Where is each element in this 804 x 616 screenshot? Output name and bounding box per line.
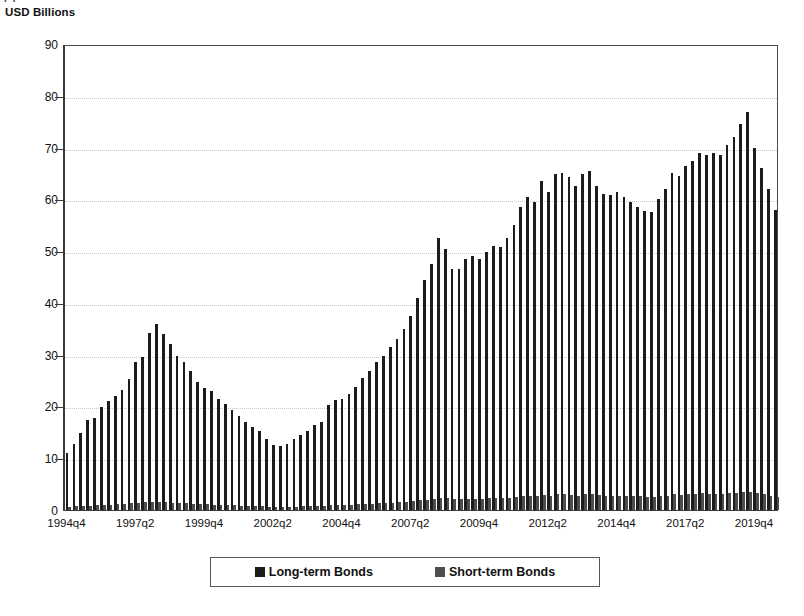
bar-group bbox=[643, 46, 649, 510]
legend-entry[interactable]: Short-term Bonds bbox=[435, 565, 555, 579]
bar-short-term bbox=[75, 506, 78, 510]
bar-group bbox=[478, 46, 484, 510]
bar-long-term bbox=[451, 269, 454, 510]
bar-long-term bbox=[629, 202, 632, 510]
y-tick-mark bbox=[55, 356, 63, 357]
bar-long-term bbox=[251, 427, 254, 510]
bar-group bbox=[416, 46, 422, 510]
bar-group bbox=[464, 46, 470, 510]
bar-group bbox=[141, 46, 147, 510]
bar-short-term bbox=[337, 505, 340, 510]
bar-short-term bbox=[653, 497, 656, 510]
x-tick-label: 1994q4 bbox=[47, 517, 85, 529]
bar-long-term bbox=[492, 246, 495, 510]
bar-short-term bbox=[577, 496, 580, 510]
bar-long-term bbox=[616, 192, 619, 510]
bar-long-term bbox=[396, 339, 399, 510]
bar-short-term bbox=[460, 499, 463, 510]
bar-group bbox=[712, 46, 718, 510]
bar-short-term bbox=[261, 506, 264, 510]
bar-short-term bbox=[357, 504, 360, 510]
bar-short-term bbox=[639, 496, 642, 510]
bar-long-term bbox=[650, 212, 653, 510]
chart-legend: Long-term BondsShort-term Bonds bbox=[210, 557, 600, 587]
bar-group bbox=[513, 46, 519, 510]
bar-long-term bbox=[513, 225, 516, 510]
bar-long-term bbox=[114, 396, 117, 510]
bar-group bbox=[313, 46, 319, 510]
y-tick-mark bbox=[55, 407, 63, 408]
bar-short-term bbox=[89, 506, 92, 510]
bar-long-term bbox=[141, 357, 144, 510]
bar-short-term bbox=[426, 500, 429, 510]
bar-short-term bbox=[756, 493, 759, 510]
x-tick-label: 2009q4 bbox=[460, 517, 498, 529]
bar-long-term bbox=[224, 404, 227, 510]
bar-group bbox=[444, 46, 450, 510]
bar-group bbox=[286, 46, 292, 510]
bar-group bbox=[719, 46, 725, 510]
y-tick-label: 70 bbox=[18, 142, 58, 156]
bar-group bbox=[437, 46, 443, 510]
bar-short-term bbox=[213, 505, 216, 510]
bar-group bbox=[79, 46, 85, 510]
bar-short-term bbox=[316, 506, 319, 510]
bar-short-term bbox=[543, 495, 546, 510]
bar-short-term bbox=[694, 494, 697, 510]
bar-long-term bbox=[79, 433, 82, 510]
bar-group bbox=[251, 46, 257, 510]
bar-long-term bbox=[265, 439, 268, 510]
bar-group bbox=[616, 46, 622, 510]
legend-entry[interactable]: Long-term Bonds bbox=[255, 565, 373, 579]
bar-short-term bbox=[68, 507, 71, 510]
bar-group bbox=[739, 46, 745, 510]
bar-short-term bbox=[96, 505, 99, 510]
bar-short-term bbox=[199, 504, 202, 510]
bar-group bbox=[698, 46, 704, 510]
bar-long-term bbox=[162, 334, 165, 510]
bar-short-term bbox=[584, 494, 587, 510]
bar-group bbox=[629, 46, 635, 510]
chart-figure: ( ) USD Billions 0102030405060708090 199… bbox=[0, 0, 804, 616]
bar-short-term bbox=[392, 503, 395, 510]
bar-long-term bbox=[258, 431, 261, 510]
bar-long-term bbox=[231, 410, 234, 510]
bar-group bbox=[176, 46, 182, 510]
bar-long-term bbox=[568, 177, 571, 510]
bar-short-term bbox=[777, 497, 780, 510]
legend-label: Long-term Bonds bbox=[269, 565, 373, 579]
bar-short-term bbox=[673, 494, 676, 510]
x-tick-label: 2002q2 bbox=[254, 517, 292, 529]
bar-group bbox=[506, 46, 512, 510]
bar-short-term bbox=[563, 494, 566, 510]
bar-long-term bbox=[196, 382, 199, 510]
bar-long-term bbox=[657, 199, 660, 510]
bar-short-term bbox=[749, 492, 752, 510]
bar-short-term bbox=[447, 498, 450, 510]
bar-short-term bbox=[165, 502, 168, 510]
bar-short-term bbox=[701, 493, 704, 510]
bar-short-term bbox=[385, 503, 388, 510]
bar-long-term bbox=[416, 298, 419, 510]
bar-short-term bbox=[605, 496, 608, 510]
bar-group bbox=[375, 46, 381, 510]
bar-long-term bbox=[155, 324, 158, 510]
bar-long-term bbox=[519, 207, 522, 510]
bar-group bbox=[609, 46, 615, 510]
bar-group bbox=[519, 46, 525, 510]
bar-group bbox=[293, 46, 299, 510]
bar-group bbox=[485, 46, 491, 510]
bar-short-term bbox=[625, 496, 628, 510]
bar-long-term bbox=[389, 347, 392, 510]
bar-short-term bbox=[557, 494, 560, 510]
bar-short-term bbox=[474, 499, 477, 510]
bar-group bbox=[279, 46, 285, 510]
bar-long-term bbox=[595, 186, 598, 510]
bar-short-term bbox=[550, 496, 553, 510]
bar-short-term bbox=[233, 505, 236, 510]
bar-long-term bbox=[739, 124, 742, 510]
bar-long-term bbox=[547, 192, 550, 510]
bar-long-term bbox=[293, 439, 296, 510]
bar-short-term bbox=[178, 503, 181, 510]
bar-group bbox=[224, 46, 230, 510]
